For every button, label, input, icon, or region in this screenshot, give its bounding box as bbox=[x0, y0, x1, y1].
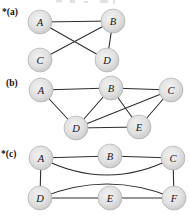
node-label-a-C: C bbox=[36, 55, 44, 66]
graph-c: *(c)ABCDEF bbox=[1, 144, 186, 210]
graph-label-b: (b) bbox=[6, 78, 18, 89]
figure-page: *(a)ABCD(b)ABCDE*(c)ABCDEF bbox=[0, 0, 190, 217]
node-label-b-A: A bbox=[37, 85, 45, 96]
graph-b: (b)ABCDE bbox=[6, 76, 183, 140]
node-label-b-D: D bbox=[71, 123, 80, 134]
node-label-c-D: D bbox=[35, 193, 44, 204]
node-label-c-E: E bbox=[106, 193, 114, 204]
cropped-text-fragment bbox=[56, 0, 115, 4]
graph-label-a: *(a) bbox=[2, 7, 18, 18]
node-label-b-B: B bbox=[108, 83, 115, 94]
node-label-b-E: E bbox=[135, 122, 143, 133]
node-label-a-A: A bbox=[36, 17, 44, 28]
node-label-c-A: A bbox=[37, 153, 45, 164]
edge-b-D-C bbox=[76, 90, 171, 128]
node-label-b-C: C bbox=[167, 85, 175, 96]
node-label-a-D: D bbox=[102, 55, 111, 66]
node-label-c-F: F bbox=[170, 193, 178, 204]
node-label-c-B: B bbox=[107, 151, 114, 162]
graphs-root: *(a)ABCD(b)ABCDE*(c)ABCDEF bbox=[1, 7, 186, 210]
node-label-a-B: B bbox=[110, 16, 117, 27]
node-label-c-C: C bbox=[169, 153, 177, 164]
graph-figure: *(a)ABCD(b)ABCDE*(c)ABCDEF bbox=[0, 0, 190, 217]
graph-a: *(a)ABCD bbox=[2, 7, 125, 72]
graph-label-c: *(c) bbox=[1, 149, 16, 160]
